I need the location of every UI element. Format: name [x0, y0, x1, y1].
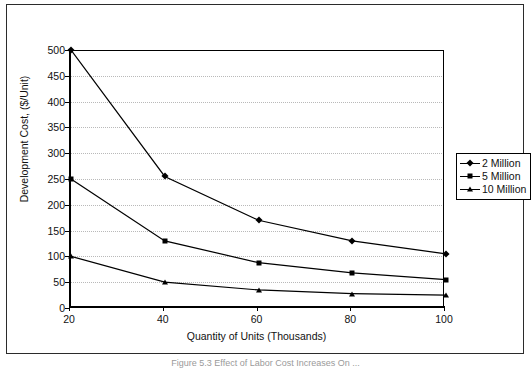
y-axis-tick-label: 250	[31, 174, 65, 185]
legend-item[interactable]: 5 Million	[460, 170, 526, 183]
legend-item-label: 2 Million	[480, 158, 521, 169]
x-axis-tick-mark	[163, 306, 164, 311]
y-axis-tick-label: 400	[31, 96, 65, 107]
data-point-marker	[69, 177, 74, 182]
y-axis-tick-label: 100	[31, 251, 65, 262]
x-axis-tick-label: 20	[63, 314, 75, 325]
y-axis-ticks: 050100150200250300350400450500	[27, 50, 65, 308]
data-point-marker	[349, 291, 355, 296]
y-axis-tick-label: 350	[31, 122, 65, 133]
legend-marker-icon	[460, 157, 480, 170]
x-axis-tick-mark	[444, 306, 445, 311]
x-axis-tick-mark	[350, 306, 351, 311]
y-axis-tick-label: 50	[31, 277, 65, 288]
x-axis-title: Quantity of Units (Thousands)	[69, 330, 444, 342]
x-axis-tick-label: 60	[251, 314, 263, 325]
data-point-marker	[68, 254, 74, 259]
y-axis-tick-label: 200	[31, 200, 65, 211]
legend-marker-icon	[460, 183, 480, 196]
y-axis-tick-label: 0	[31, 303, 65, 314]
data-point-marker	[162, 280, 168, 285]
x-axis-tick-label: 80	[344, 314, 356, 325]
x-axis-ticks: 20406080100	[69, 312, 444, 328]
series-lines	[71, 50, 446, 308]
legend-item-label: 10 Million	[480, 184, 526, 195]
x-axis-tick-mark	[69, 306, 70, 311]
y-axis-tick-label: 150	[31, 225, 65, 236]
figure-frame: Development Cost, ($/Unit) 0501001502002…	[6, 4, 524, 354]
legend-item[interactable]: 2 Million	[460, 157, 526, 170]
legend-item[interactable]: 10 Million	[460, 183, 526, 196]
plot-area	[69, 50, 444, 308]
x-axis-tick-mark	[257, 306, 258, 311]
data-point-marker	[443, 293, 449, 298]
data-point-marker	[256, 287, 262, 292]
data-point-marker	[162, 238, 167, 243]
legend-item-label: 5 Million	[480, 171, 521, 182]
data-point-marker	[444, 277, 449, 282]
x-axis-tick-label: 100	[435, 314, 453, 325]
data-point-marker	[256, 260, 261, 265]
y-axis-tick-label: 300	[31, 148, 65, 159]
y-axis-tick-label: 450	[31, 71, 65, 82]
chart-legend[interactable]: 2 Million5 Million10 Million	[456, 153, 531, 200]
x-axis-tick-label: 40	[157, 314, 169, 325]
data-point-marker	[350, 270, 355, 275]
y-axis-tick-label: 500	[31, 45, 65, 56]
legend-marker-icon	[460, 170, 480, 183]
figure-caption: Figure 5.3 Effect of Labor Cost Increase…	[0, 358, 531, 369]
